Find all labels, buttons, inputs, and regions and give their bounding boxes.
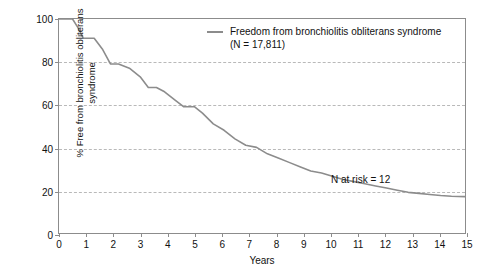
x-tick-mark bbox=[249, 233, 250, 237]
x-tick-mark bbox=[168, 233, 169, 237]
x-tick-label: 15 bbox=[461, 239, 472, 250]
x-tick-label: 1 bbox=[83, 239, 89, 250]
x-tick-label: 7 bbox=[247, 239, 253, 250]
y-tick-label: 80 bbox=[42, 57, 53, 68]
x-tick-mark bbox=[331, 233, 332, 237]
x-tick-mark bbox=[440, 233, 441, 237]
x-tick-mark bbox=[277, 233, 278, 237]
x-tick-label: 11 bbox=[353, 239, 363, 250]
x-tick-label: 12 bbox=[380, 239, 391, 250]
y-tick-label: 40 bbox=[42, 143, 53, 154]
n-at-risk-annotation: N at risk = 12 bbox=[331, 174, 390, 185]
x-tick-label: 2 bbox=[111, 239, 117, 250]
y-tick-label: 20 bbox=[42, 186, 53, 197]
y-tick-label: 0 bbox=[47, 230, 53, 241]
y-axis-title: % Free from bronchiolitis obliteranssynd… bbox=[74, 0, 98, 168]
x-tick-mark bbox=[86, 233, 87, 237]
y-tick-label: 60 bbox=[42, 100, 53, 111]
x-tick-label: 3 bbox=[138, 239, 144, 250]
x-tick-mark bbox=[59, 233, 60, 237]
x-tick-mark bbox=[222, 233, 223, 237]
x-tick-mark bbox=[413, 233, 414, 237]
x-tick-mark bbox=[385, 233, 386, 237]
y-tick-label: 100 bbox=[36, 14, 53, 25]
x-tick-mark bbox=[358, 233, 359, 237]
x-tick-mark bbox=[304, 233, 305, 237]
plot-area: 020406080100 0123456789101112131415 Free… bbox=[58, 18, 466, 234]
x-axis-title: Years bbox=[59, 255, 465, 266]
x-tick-mark bbox=[195, 233, 196, 237]
x-tick-label: 9 bbox=[301, 239, 307, 250]
x-tick-label: 6 bbox=[219, 239, 225, 250]
x-tick-label: 0 bbox=[56, 239, 62, 250]
x-tick-mark bbox=[467, 233, 468, 237]
x-tick-mark bbox=[113, 233, 114, 237]
x-tick-label: 14 bbox=[434, 239, 445, 250]
y-axis-title-line: % Free from bronchiolitis obliterans bbox=[74, 0, 86, 168]
x-tick-label: 8 bbox=[274, 239, 280, 250]
y-axis-title-line: syndrome bbox=[86, 0, 98, 168]
x-tick-label: 13 bbox=[407, 239, 418, 250]
x-tick-label: 10 bbox=[325, 239, 336, 250]
x-tick-mark bbox=[141, 233, 142, 237]
annotation-layer: N at risk = 12 bbox=[59, 19, 465, 233]
x-tick-label: 5 bbox=[192, 239, 198, 250]
chart-figure: 020406080100 0123456789101112131415 Free… bbox=[0, 0, 479, 279]
x-tick-label: 4 bbox=[165, 239, 171, 250]
